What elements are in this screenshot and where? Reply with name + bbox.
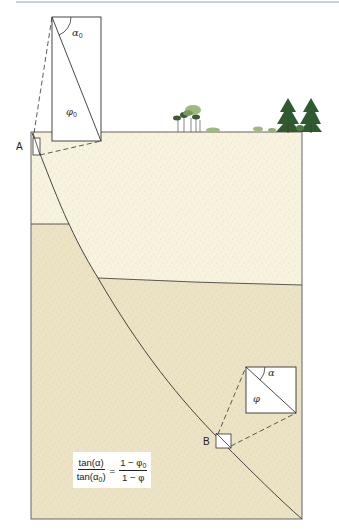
cross-section-diagram <box>0 0 339 529</box>
connector-a-top <box>34 17 52 133</box>
formula-rhs: 1 − φ0 1 − φ <box>119 457 147 483</box>
label-b: B <box>203 436 210 447</box>
trees-icon <box>173 98 322 133</box>
label-phi0: φ0 <box>66 106 77 118</box>
formula-equals: = <box>110 465 116 476</box>
compaction-formula: tan(α) tan(α0) = 1 − φ0 1 − φ <box>73 452 151 488</box>
label-a: A <box>16 141 23 152</box>
formula-lhs: tan(α) tan(α0) <box>77 457 106 483</box>
label-alpha0: α0 <box>72 27 83 39</box>
label-alpha: α <box>268 367 275 378</box>
label-phi: φ <box>253 393 260 404</box>
